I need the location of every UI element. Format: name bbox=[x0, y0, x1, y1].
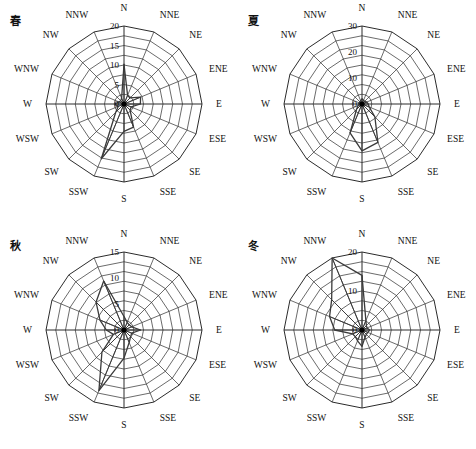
direction-label-ESE: ESE bbox=[447, 360, 464, 370]
radial-tick-label: 0 bbox=[115, 325, 120, 335]
direction-label-S: S bbox=[359, 194, 364, 204]
wind-rose-plot: 05101520NNNENEENEEESESESSESSSWSWWSWWWNWN… bbox=[0, 0, 238, 225]
direction-label-W: W bbox=[23, 99, 32, 109]
direction-label-SSW: SSW bbox=[69, 187, 89, 197]
direction-label-NE: NE bbox=[189, 256, 202, 266]
center-dot bbox=[121, 101, 126, 106]
wind-rose-figure: 春05101520NNNENEENEEESESESSESSSWSWWSWWWNW… bbox=[0, 0, 476, 449]
direction-label-NE: NE bbox=[427, 256, 440, 266]
direction-label-E: E bbox=[454, 99, 460, 109]
direction-label-E: E bbox=[454, 325, 460, 335]
radial-tick-label: 15 bbox=[110, 41, 120, 51]
wind-rose-panel-4: 冬01020NNNENEENEEESESESSESSSWSWWSWWWNWNWN… bbox=[238, 225, 476, 449]
direction-label-NE: NE bbox=[427, 30, 440, 40]
wind-rose-plot: 051015NNNENEENEEESESESSESSSWSWWSWWWNWNWN… bbox=[0, 225, 238, 449]
radial-tick-label: 20 bbox=[348, 247, 358, 257]
season-label: 冬 bbox=[248, 237, 259, 253]
direction-label-SSE: SSE bbox=[160, 187, 177, 197]
direction-label-SSW: SSW bbox=[307, 187, 327, 197]
center-dot bbox=[359, 101, 364, 106]
direction-label-N: N bbox=[359, 3, 366, 13]
direction-label-WNW: WNW bbox=[252, 290, 277, 300]
data-spoke-NW bbox=[332, 300, 362, 330]
direction-label-NNE: NNE bbox=[160, 236, 180, 246]
direction-label-N: N bbox=[121, 229, 128, 239]
data-series bbox=[96, 281, 141, 391]
direction-label-N: N bbox=[121, 3, 128, 13]
direction-label-ENE: ENE bbox=[209, 64, 228, 74]
data-series bbox=[330, 258, 370, 346]
direction-label-W: W bbox=[261, 99, 270, 109]
direction-label-NNW: NNW bbox=[303, 236, 326, 246]
direction-label-S: S bbox=[121, 420, 126, 430]
direction-label-NNW: NNW bbox=[65, 236, 88, 246]
direction-label-NNW: NNW bbox=[303, 10, 326, 20]
direction-label-NE: NE bbox=[189, 30, 202, 40]
radial-tick-label: 15 bbox=[110, 247, 120, 257]
direction-label-SW: SW bbox=[282, 167, 296, 177]
direction-label-WSW: WSW bbox=[254, 134, 277, 144]
direction-label-SE: SE bbox=[427, 167, 438, 177]
direction-label-SSE: SSE bbox=[398, 413, 415, 423]
direction-label-NNE: NNE bbox=[398, 236, 418, 246]
radial-tick-label: 10 bbox=[110, 60, 120, 70]
direction-label-N: N bbox=[359, 229, 366, 239]
direction-label-WSW: WSW bbox=[16, 134, 39, 144]
center-dot bbox=[359, 327, 364, 332]
direction-label-SW: SW bbox=[44, 167, 58, 177]
direction-label-WSW: WSW bbox=[16, 360, 39, 370]
direction-label-NW: NW bbox=[43, 256, 59, 266]
direction-label-WNW: WNW bbox=[14, 290, 39, 300]
direction-label-NW: NW bbox=[281, 256, 297, 266]
direction-label-WNW: WNW bbox=[252, 64, 277, 74]
radial-tick-label: 0 bbox=[353, 99, 358, 109]
season-label: 春 bbox=[10, 12, 21, 28]
wind-rose-panel-3: 秋051015NNNENEENEEESESESSESSSWSWWSWWWNWNW… bbox=[0, 225, 238, 449]
direction-label-ESE: ESE bbox=[209, 360, 226, 370]
season-label: 秋 bbox=[10, 237, 21, 253]
direction-label-S: S bbox=[359, 420, 364, 430]
radial-tick-label: 0 bbox=[115, 99, 120, 109]
wind-rose-panel-2: 夏0102030NNNENEENEEESESESSESSSWSWWSWWWNWN… bbox=[238, 0, 476, 225]
radial-tick-label: 0 bbox=[353, 325, 358, 335]
radial-tick-label: 10 bbox=[348, 286, 358, 296]
direction-label-W: W bbox=[23, 325, 32, 335]
data-spoke-NW bbox=[96, 302, 124, 330]
direction-label-SW: SW bbox=[282, 393, 296, 403]
direction-label-SSW: SSW bbox=[69, 413, 89, 423]
direction-label-W: W bbox=[261, 325, 270, 335]
direction-label-NW: NW bbox=[281, 30, 297, 40]
direction-label-E: E bbox=[216, 325, 222, 335]
direction-label-NW: NW bbox=[43, 30, 59, 40]
radial-tick-label: 20 bbox=[348, 47, 358, 57]
direction-label-SW: SW bbox=[44, 393, 58, 403]
direction-label-WSW: WSW bbox=[254, 360, 277, 370]
direction-label-SE: SE bbox=[189, 393, 200, 403]
direction-label-WNW: WNW bbox=[14, 64, 39, 74]
radial-tick-label: 10 bbox=[110, 273, 120, 283]
direction-label-SSE: SSE bbox=[398, 187, 415, 197]
direction-label-S: S bbox=[121, 194, 126, 204]
direction-label-ESE: ESE bbox=[447, 134, 464, 144]
wind-rose-plot: 0102030NNNENEENEEESESESSESSSWSWWSWWWNWNW… bbox=[238, 0, 476, 225]
radial-tick-label: 30 bbox=[348, 21, 358, 31]
radial-tick-label: 5 bbox=[115, 299, 120, 309]
wind-rose-panel-1: 春05101520NNNENEENEEESESESSESSSWSWWSWWWNW… bbox=[0, 0, 238, 225]
direction-label-SE: SE bbox=[427, 393, 438, 403]
radial-tick-label: 10 bbox=[348, 73, 358, 83]
direction-label-ENE: ENE bbox=[209, 290, 228, 300]
direction-label-ENE: ENE bbox=[447, 64, 466, 74]
direction-label-E: E bbox=[216, 99, 222, 109]
direction-label-ESE: ESE bbox=[209, 134, 226, 144]
direction-label-NNE: NNE bbox=[398, 10, 418, 20]
radial-tick-label: 5 bbox=[115, 80, 120, 90]
direction-label-SE: SE bbox=[189, 167, 200, 177]
direction-label-NNW: NNW bbox=[65, 10, 88, 20]
direction-label-SSE: SSE bbox=[160, 413, 177, 423]
center-dot bbox=[121, 327, 126, 332]
direction-label-NNE: NNE bbox=[160, 10, 180, 20]
direction-label-ENE: ENE bbox=[447, 290, 466, 300]
season-label: 夏 bbox=[248, 12, 259, 28]
direction-label-SSW: SSW bbox=[307, 413, 327, 423]
wind-rose-plot: 01020NNNENEENEEESESESSESSSWSWWSWWWNWNWNN… bbox=[238, 225, 476, 449]
